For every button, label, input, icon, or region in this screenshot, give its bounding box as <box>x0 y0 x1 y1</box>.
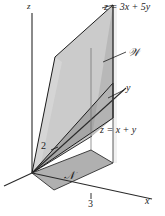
x-tick-3-label: 3 <box>88 199 93 209</box>
y-axis-negative-stub <box>4 173 32 186</box>
solid-region-label: 𝒲 <box>128 47 140 58</box>
top-plane-equation-label: z = 3x + 5y <box>104 2 150 12</box>
domain-region-label: 𝒩 <box>64 170 75 181</box>
right-vertical-wall <box>113 5 117 163</box>
bottom-plane-equation-label: z = x + y <box>100 125 136 135</box>
x-axis-label: x <box>145 196 149 206</box>
figure-canvas: z = 3x + 5y 𝒲 y z = x + y z x 𝒩 2 3 <box>0 0 165 216</box>
y-tick-2-label: 2 <box>41 141 46 151</box>
figure-graphics <box>0 0 165 216</box>
z-axis-label: z <box>27 2 31 11</box>
y-axis-label: y <box>126 83 130 93</box>
